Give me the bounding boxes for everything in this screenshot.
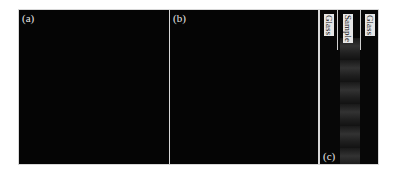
layer-label-sample: Sample (343, 14, 353, 43)
figure: (a) (b) Glass Sample Glass (c) (18, 9, 379, 165)
layer-label-glass-right: Glass (365, 14, 375, 36)
sample-band (340, 38, 360, 164)
panel-c-label: (c) (323, 150, 335, 162)
panel-a-label: (a) (22, 12, 34, 24)
layer-divider (360, 10, 361, 50)
panel-c: Glass Sample Glass (c) (320, 10, 378, 164)
panel-b: (b) (170, 10, 318, 164)
panel-b-label: (b) (173, 12, 186, 24)
layer-label-glass-left: Glass (324, 14, 334, 36)
panel-a: (a) (19, 10, 169, 164)
layer-divider (337, 10, 338, 50)
